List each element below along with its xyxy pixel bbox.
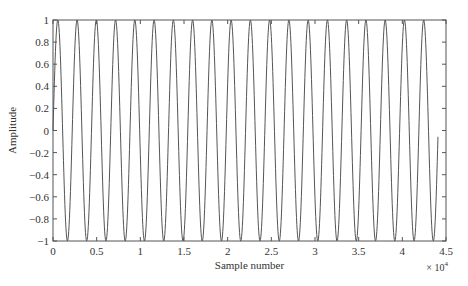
series-layer	[53, 20, 438, 241]
y-tick-label: −0.6	[29, 191, 49, 203]
x-tick-label: 3	[312, 245, 318, 257]
x-axis-scale-factor: × 104	[426, 260, 448, 273]
y-tick-label: 0.8	[35, 36, 49, 48]
y-tick-label: −0.2	[29, 147, 49, 159]
x-tick-label: 1	[138, 245, 144, 257]
x-tick-label: 2.5	[264, 245, 278, 257]
x-tick-label: 0.5	[90, 245, 104, 257]
x-tick-label: 4.5	[439, 245, 453, 257]
x-scale-exponent: 4	[445, 260, 449, 268]
y-tick-label: −1	[37, 235, 49, 247]
y-tick-label: 0	[44, 125, 50, 137]
y-tick-label: 0.4	[35, 80, 49, 92]
y-tick-label: 1	[44, 14, 50, 26]
y-tick-label: −0.4	[29, 169, 49, 181]
x-axis-label: Sample number	[215, 259, 285, 271]
series-line-sine-wave	[53, 20, 438, 241]
x-tick-label: 3.5	[352, 245, 366, 257]
y-axis-label: Amplitude	[6, 107, 18, 154]
x-tick-label: 1.5	[177, 245, 191, 257]
x-scale-base: × 10	[426, 262, 444, 273]
y-tick-label: 0.6	[35, 58, 49, 70]
chart: 00.511.522.533.544.5 −1−0.8−0.6−0.4−0.20…	[0, 0, 468, 286]
x-tick-label: 2	[225, 245, 231, 257]
axes-box	[53, 20, 446, 241]
y-tick-label: −0.8	[29, 213, 49, 225]
y-tick-label: 0.2	[35, 102, 49, 114]
x-tick-label: 0	[50, 245, 56, 257]
x-tick-label: 4	[400, 245, 406, 257]
